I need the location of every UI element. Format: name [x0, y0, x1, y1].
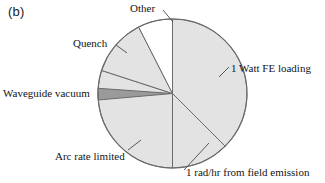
pie-slice-group: [98, 19, 247, 168]
slice-label-waveguide-vacuum: Waveguide vacuum: [3, 87, 90, 99]
slice-label-fe-loading: 1 Watt FE loading: [231, 62, 311, 74]
slice-label-quench: Quench: [73, 37, 107, 49]
slice-label-rad-per-hr: 1 rad/hr from field emission: [186, 166, 309, 178]
pie-chart-figure: (b) Other 1 Watt FE loading 1 rad/hr fro…: [0, 0, 325, 183]
slice-label-other: Other: [130, 2, 155, 14]
slice-label-arc-rate: Arc rate limited: [55, 150, 125, 162]
